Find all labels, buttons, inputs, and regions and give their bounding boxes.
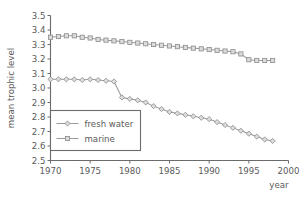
data-point-marker	[152, 42, 156, 46]
y-axis-tick-label: 3.4	[32, 25, 46, 35]
data-point-marker	[215, 48, 219, 52]
data-point-marker	[254, 134, 259, 139]
data-point-marker	[80, 77, 85, 82]
data-point-marker	[223, 49, 227, 53]
x-axis-tick-label: 1985	[159, 166, 181, 176]
data-point-marker	[191, 46, 195, 50]
legend-marker	[65, 136, 69, 140]
data-point-marker	[191, 114, 196, 119]
data-point-marker	[231, 50, 235, 54]
data-point-marker	[48, 35, 52, 39]
data-point-marker	[88, 36, 92, 40]
data-point-marker	[271, 58, 275, 62]
data-point-marker	[183, 112, 188, 117]
data-point-marker	[263, 58, 267, 62]
chart-container: 2.52.62.72.82.93.03.13.23.33.43.51970197…	[0, 0, 302, 203]
y-axis-title: mean trophic level	[6, 48, 16, 128]
data-point-marker	[167, 44, 171, 48]
data-point-marker	[120, 40, 124, 44]
y-axis-tick-label: 2.6	[32, 141, 46, 151]
data-point-marker	[72, 77, 77, 82]
data-point-marker	[262, 137, 267, 142]
data-point-marker	[199, 47, 203, 51]
y-axis-tick-label: 2.7	[32, 127, 46, 137]
data-point-marker	[64, 34, 68, 38]
data-point-marker	[230, 125, 235, 130]
data-point-marker	[136, 41, 140, 45]
data-point-marker	[207, 117, 212, 122]
data-point-marker	[199, 115, 204, 120]
data-point-marker	[207, 47, 211, 51]
data-point-marker	[215, 119, 220, 124]
data-point-marker	[143, 100, 148, 105]
y-axis-tick-label: 3.1	[32, 69, 46, 79]
data-point-marker	[159, 43, 163, 47]
data-point-marker	[167, 109, 172, 114]
data-point-marker	[135, 98, 140, 103]
data-point-marker	[144, 42, 148, 46]
data-point-marker	[270, 138, 275, 143]
series-marine	[48, 34, 274, 63]
data-point-marker	[183, 45, 187, 49]
data-point-marker	[96, 37, 100, 41]
data-point-marker	[119, 95, 124, 100]
data-point-marker	[159, 106, 164, 111]
legend-label: fresh water	[85, 119, 134, 129]
data-point-marker	[175, 45, 179, 49]
y-axis-tick-label: 2.9	[32, 98, 46, 108]
y-axis-tick-label: 2.8	[32, 112, 46, 122]
x-axis-tick-label: 1995	[238, 166, 260, 176]
x-axis-tick-label: 1975	[79, 166, 101, 176]
x-axis-tick-label: 1990	[198, 166, 220, 176]
data-point-marker	[103, 78, 108, 83]
data-point-marker	[80, 35, 84, 39]
data-point-marker	[48, 77, 53, 82]
data-point-marker	[127, 96, 132, 101]
data-point-marker	[128, 40, 132, 44]
data-point-marker	[151, 104, 156, 109]
data-point-marker	[96, 77, 101, 82]
data-point-marker	[175, 111, 180, 116]
legend-box	[51, 111, 141, 151]
data-point-marker	[238, 128, 243, 133]
data-point-marker	[246, 131, 251, 136]
data-point-marker	[56, 34, 60, 38]
y-axis-tick-label: 3.3	[32, 40, 46, 50]
data-point-marker	[64, 77, 69, 82]
y-axis-tick-label: 2.5	[32, 156, 46, 166]
x-axis-title: year	[269, 180, 289, 190]
trophic-level-line-chart: 2.52.62.72.82.93.03.13.23.33.43.51970197…	[0, 0, 302, 203]
data-point-marker	[239, 52, 243, 56]
data-point-marker	[111, 79, 116, 84]
legend-label: marine	[85, 134, 115, 144]
x-axis-tick-label: 1980	[119, 166, 141, 176]
data-point-marker	[112, 39, 116, 43]
y-axis-tick-label: 3.0	[32, 83, 46, 93]
data-point-marker	[72, 34, 76, 38]
data-point-marker	[247, 58, 251, 62]
y-axis-tick-label: 3.2	[32, 54, 46, 64]
data-point-marker	[222, 122, 227, 127]
data-point-marker	[56, 77, 61, 82]
data-point-marker	[104, 38, 108, 42]
x-axis-tick-label: 1970	[40, 166, 62, 176]
data-point-marker	[88, 77, 93, 82]
y-axis-tick-label: 3.5	[32, 11, 46, 21]
x-axis-tick-label: 2000	[278, 166, 300, 176]
data-point-marker	[255, 58, 259, 62]
